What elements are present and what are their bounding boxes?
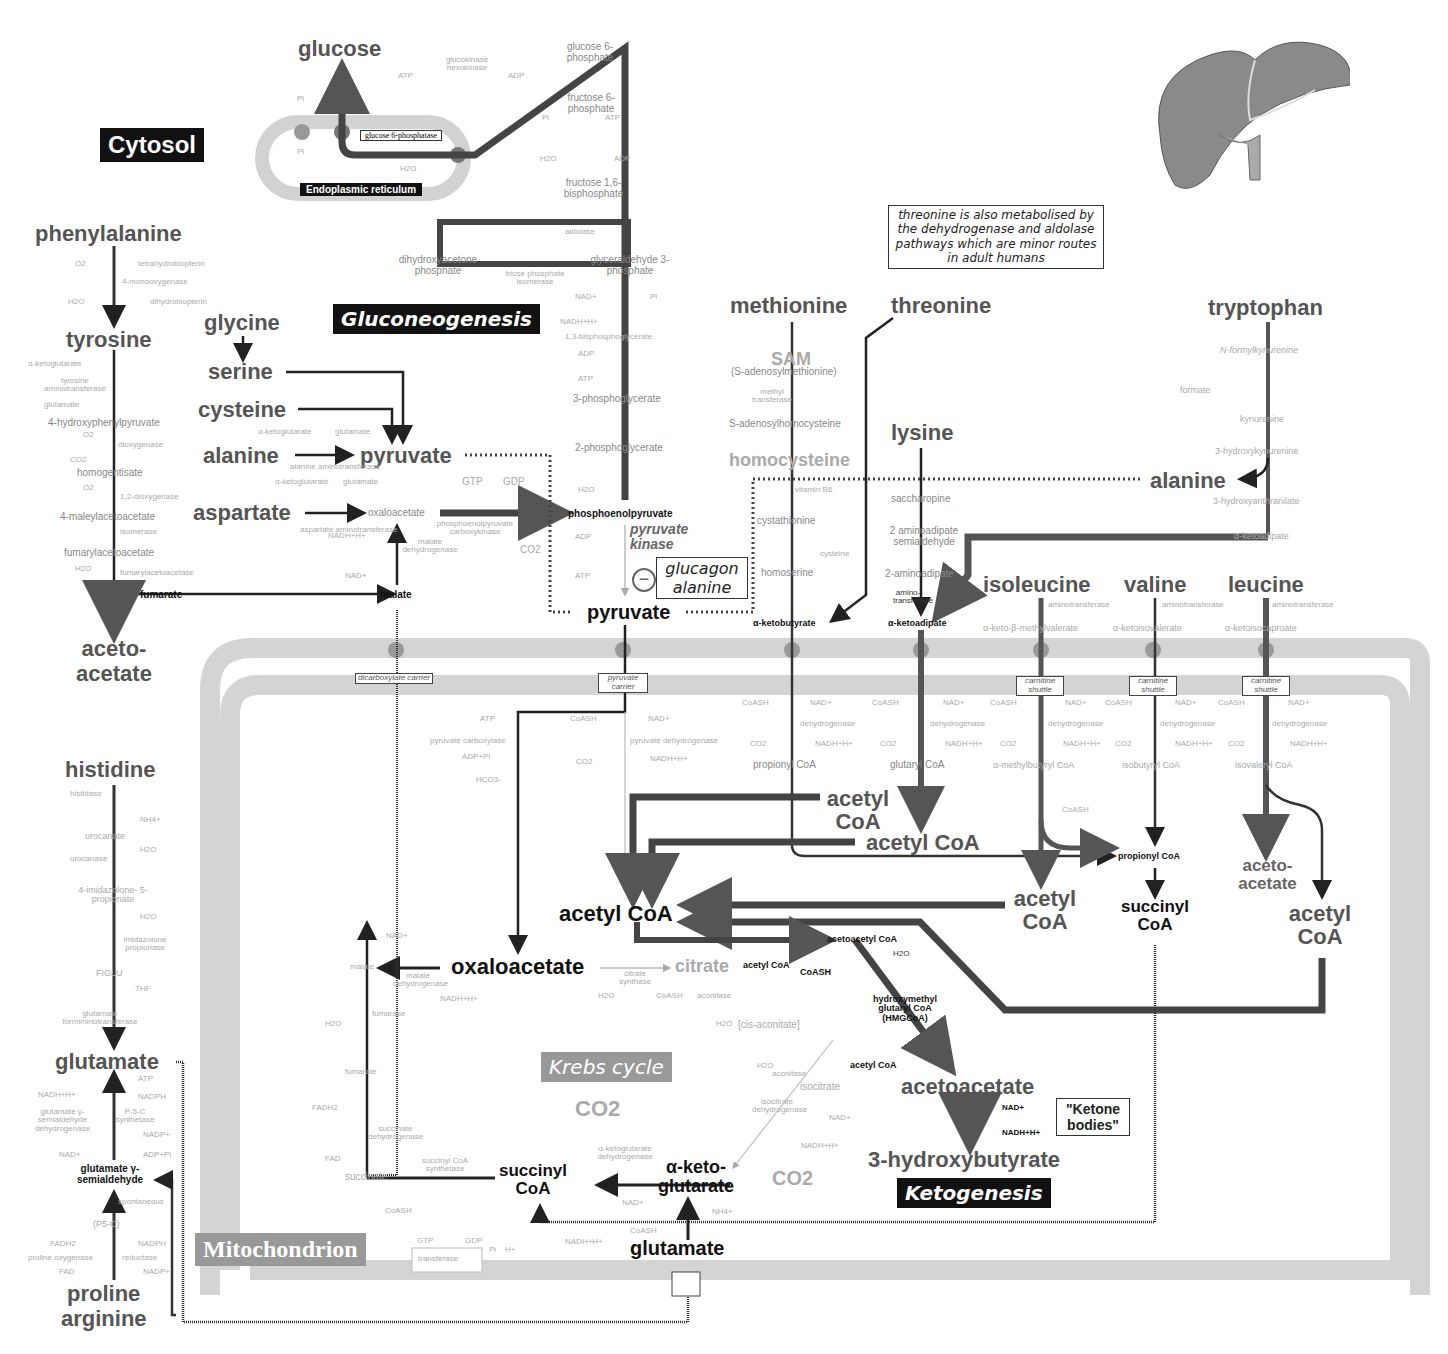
pyruvate-carboxylase: pyruvate carboxylase xyxy=(430,737,506,745)
methionine: methionine xyxy=(730,294,847,317)
vitamin-b6: vitamin B6 xyxy=(795,486,832,494)
oxaloacetate-cytosol: oxaloacetate xyxy=(368,508,425,519)
isocitrate-dehydrogenase: isocitrate dehydrogenase xyxy=(752,1098,802,1115)
glucose-6-phosphatase: glucose 6-phosphatase xyxy=(360,130,442,141)
alpha-ketoisovalerate: α-ketoisovalerate xyxy=(1113,624,1182,633)
aminoadipate-semialdehyde: 2 aminoadipate semialdehyde xyxy=(883,526,965,547)
nadh-label: NADH+H+ xyxy=(650,755,688,763)
nad-label: NAD+ xyxy=(1065,699,1087,707)
nadph-label: NADPH xyxy=(138,1240,166,1248)
atp-label: ATP xyxy=(398,72,413,80)
pyruvate-dehydrogenase: pyruvate dehydrogenase xyxy=(630,737,718,745)
succinyl-coa-synthetase: succinyl CoA synthetase xyxy=(420,1157,470,1174)
tyrosine-aminotransferase: tyrosine aminotransferase xyxy=(40,377,110,394)
histidine: histidine xyxy=(65,758,155,781)
coash-label: CoASH xyxy=(385,1207,412,1215)
nh4-label: NH4+ xyxy=(712,1208,733,1216)
atp-label: ATP xyxy=(578,375,593,383)
atp-label: ATP xyxy=(138,1075,153,1083)
co2-label: CO2 xyxy=(1000,740,1016,748)
s-adenosylhomocysteine: S-adenosylhomocysteine xyxy=(729,419,841,430)
h2o-label: H2O xyxy=(716,1020,732,1028)
tyrosine: tyrosine xyxy=(66,328,152,351)
alpha-ketoglutarate-dehydrogenase: α-ketoglutarate dehydrogenase xyxy=(590,1145,660,1162)
coash-label: CoASH xyxy=(1218,699,1245,707)
tetrahydrobiopterin: tetrahydrobiopterin xyxy=(138,260,205,268)
aspartate: aspartate xyxy=(193,501,291,524)
isobutyryl-coa: isobutyryl CoA xyxy=(1122,761,1180,770)
coash-label: CoASH xyxy=(1062,806,1089,814)
nad-label: NAD+ xyxy=(1002,1104,1024,1112)
figlu: FIGLU xyxy=(96,969,123,978)
nadh-label: NADH+H+ xyxy=(328,532,366,540)
glyceraldehyde-3-phosphate: glyceraldehyde 3-phosphate xyxy=(590,255,670,276)
homocysteine: homocysteine xyxy=(729,451,850,470)
gtp-label: GTP xyxy=(462,477,483,488)
saccharopine: saccharopine xyxy=(891,494,950,505)
acetyl-coa-main: acetyl CoA xyxy=(559,902,673,925)
alpha-ketoglutarate-mito: α-keto- glutarate xyxy=(651,1158,741,1196)
thf-label: THF xyxy=(135,985,151,993)
h2o-label: H2O xyxy=(757,1062,773,1070)
malate-mito: malate xyxy=(350,963,374,971)
cysteine: cysteine xyxy=(198,398,286,421)
glutamate-label: glutamate xyxy=(335,428,370,436)
fadh2-label: FADH2 xyxy=(312,1104,338,1112)
phenylalanine: phenylalanine xyxy=(35,222,182,245)
nadh-label: NADH+H+ xyxy=(815,740,853,748)
propionyl-coa-from-methionine: propionyl CoA xyxy=(753,760,816,771)
imidazolone-propionase: imidazolone propionase xyxy=(115,936,175,953)
3-hydroxybutyrate: 3-hydroxybutyrate xyxy=(868,1148,1060,1171)
aminotransferase: aminotransferase xyxy=(1048,601,1110,609)
carnitine-shuttle: carnitine shuttle xyxy=(1129,676,1177,696)
coash-label: CoASH xyxy=(742,699,769,707)
inhibitor-box: glucagon alanine xyxy=(656,557,748,599)
h2o-label: H2O xyxy=(140,846,156,854)
mitochondrion-label: Mitochondrion xyxy=(195,1233,366,1266)
fumarylacetoacetase: fumarylacetoacetase xyxy=(120,569,194,577)
metabolic-pathway-diagram: Cytosol Endoplasmic reticulum Mitochondr… xyxy=(0,0,1448,1354)
3-hydroxyanthranilate: 3-hydroxyanthranilate xyxy=(1213,497,1300,506)
s-adenosylmethionine: (S-adenosylmethionine) xyxy=(731,367,837,378)
serine: serine xyxy=(208,360,273,383)
cytosol-label: Cytosol xyxy=(100,128,204,162)
adp-label: ADP xyxy=(508,72,524,80)
dihydrobiopterin: dihydrobiopterin xyxy=(150,298,207,306)
co2-label: CO2 xyxy=(750,740,766,748)
p5c-reductase: reductase xyxy=(122,1254,157,1262)
isomerase: isomerase xyxy=(120,528,157,536)
nad-label: NAD+ xyxy=(345,572,367,580)
alanine-from-tryptophan: alanine xyxy=(1150,469,1226,492)
proline-oxygenase: proline oxygenase xyxy=(28,1254,93,1262)
fadh2-label: FADH2 xyxy=(50,1240,76,1248)
coash-label: CoASH xyxy=(630,1227,657,1235)
acetoacetate-from-leucine: aceto- acetate xyxy=(1230,857,1305,893)
coash-label: CoASH xyxy=(872,699,899,707)
gdp-label: GDP xyxy=(465,1237,482,1245)
nadh-label: NADH+H+ xyxy=(1290,740,1328,748)
acetyl-coa-from-lysine: acetyl CoA xyxy=(866,831,980,854)
o2-label: O2 xyxy=(83,431,94,439)
coash-label: CoASH xyxy=(656,992,683,1000)
nadh-label: NADH+H+ xyxy=(1063,740,1101,748)
threonine-note: threonine is also metabolised by the deh… xyxy=(888,205,1104,269)
isovaleryl-coa: isovaleryl CoA xyxy=(1235,761,1293,770)
ketogenesis-label: Ketogenesis xyxy=(897,1178,1051,1208)
nad-label: NAD+ xyxy=(943,699,965,707)
lysine: lysine xyxy=(891,421,953,444)
methyltransferase: methyl transferase xyxy=(752,388,792,405)
h2o-label: H2O xyxy=(598,992,614,1000)
isoleucine: isoleucine xyxy=(983,573,1091,596)
leucine: leucine xyxy=(1228,573,1304,596)
h2o-label: H2O xyxy=(325,1020,341,1028)
alpha-ketoglutarate: α-ketoglutarate xyxy=(275,478,329,486)
arginine: arginine xyxy=(61,1307,147,1330)
fad-label: FAD xyxy=(59,1268,75,1276)
cis-aconitate: [cis-aconitate] xyxy=(738,1020,800,1031)
nadh-label: NADH+H+ xyxy=(1175,740,1213,748)
h-label: H+ xyxy=(505,1246,515,1254)
fumarase: fumarase xyxy=(372,1010,405,1018)
glutamate-formiminotransferase: glutamate formiminotransferase xyxy=(55,1010,145,1027)
carnitine-shuttle: carnitine shuttle xyxy=(1242,676,1290,696)
krebs-cycle-label: Krebs cycle xyxy=(541,1052,672,1082)
